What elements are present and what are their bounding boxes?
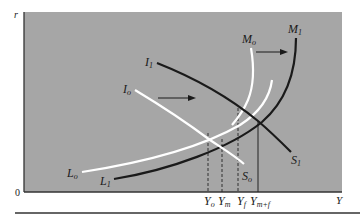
label-i0: Io [123,83,131,97]
origin-label: 0 [15,188,20,198]
label-l0: Lo [67,167,78,181]
label-ym: Ym [218,195,230,209]
diagram-canvas [0,0,360,222]
label-s0: So [242,170,252,184]
y-axis-label: r [14,10,18,20]
label-l1: L1 [100,175,111,189]
x-axis-label: Y [336,195,342,206]
label-yf: Yf [237,195,246,209]
label-s1: S1 [291,154,301,168]
label-m1: M1 [288,23,302,37]
label-i1: I1 [145,56,153,70]
label-y0: Yo [204,195,215,209]
label-ymf: Ym+f [250,195,270,209]
economics-diagram: r 0 Y I1 Io Mo M1 S1 So Lo L1 Yo Ym Yf Y… [0,0,360,222]
label-m0: Mo [242,33,256,47]
